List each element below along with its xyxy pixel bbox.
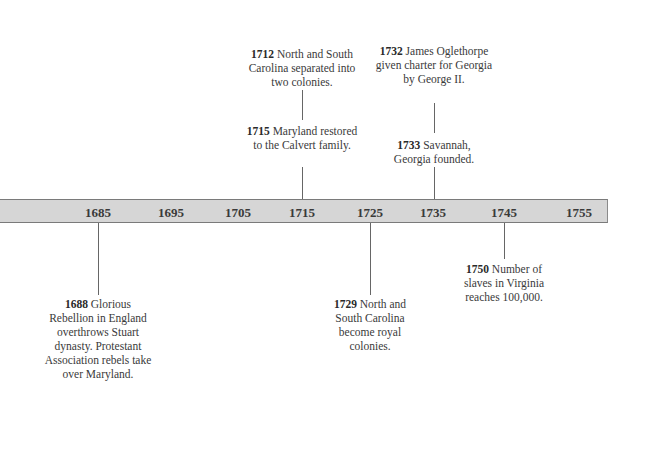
connector-line (504, 223, 505, 259)
tick-1735: 1735 (408, 205, 458, 221)
tick-1695: 1695 (146, 205, 196, 221)
event-text: Glorious Rebellion in England overthrows… (45, 298, 152, 380)
tick-1725: 1725 (345, 205, 395, 221)
connector-line (302, 167, 303, 199)
event-1729: 1729 North and South Carolina become roy… (323, 297, 418, 353)
event-year: 1688 (65, 298, 88, 310)
event-year: 1729 (334, 298, 357, 310)
connector-line (434, 167, 435, 199)
connector-line (370, 223, 371, 295)
event-year: 1750 (466, 263, 489, 275)
tick-1705: 1705 (213, 205, 263, 221)
tick-1755: 1755 (554, 205, 604, 221)
connector-line (434, 103, 435, 133)
event-1688: 1688 Glorious Rebellion in England overt… (42, 297, 154, 381)
tick-1715: 1715 (277, 205, 327, 221)
event-1733: 1733 Savannah, Georgia founded. (379, 138, 489, 166)
event-year: 1712 (251, 48, 274, 60)
event-1732: 1732 James Oglethorpe given charter for … (374, 44, 494, 86)
event-year: 1715 (247, 125, 270, 137)
tick-1685: 1685 (73, 205, 123, 221)
event-year: 1733 (397, 139, 420, 151)
tick-1745: 1745 (479, 205, 529, 221)
connector-line (302, 90, 303, 120)
event-1715: 1715 Maryland restored to the Calvert fa… (242, 124, 362, 152)
event-1712: 1712 North and South Carolina separated … (242, 47, 362, 89)
event-year: 1732 (380, 45, 403, 57)
event-1750: 1750 Number of slaves in Virginia reache… (454, 262, 554, 304)
connector-line (98, 223, 99, 295)
